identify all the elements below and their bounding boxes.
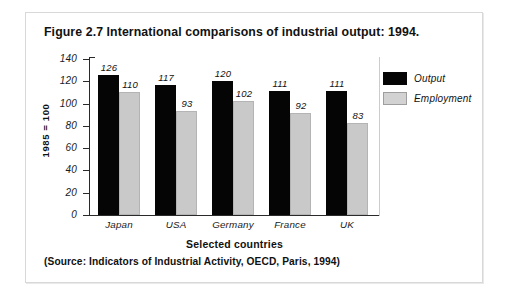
bar-group: 126110 <box>98 55 140 215</box>
x-axis-title: Selected countries <box>89 238 380 250</box>
y-axis-tick <box>83 215 90 216</box>
y-axis-tick-label: 40 <box>35 164 77 175</box>
bar-output <box>98 75 119 215</box>
legend-swatch-output <box>383 72 407 85</box>
bar-employment <box>290 113 311 216</box>
bar-value-label: 111 <box>317 78 357 89</box>
y-axis-tick-label: 80 <box>35 120 77 131</box>
y-axis-tick <box>83 126 90 127</box>
y-axis-top-cap <box>89 57 95 58</box>
bar-employment <box>347 123 368 215</box>
bar-value-label: 92 <box>281 100 321 111</box>
bar-value-label: 102 <box>224 88 264 99</box>
bar-group: 11192 <box>269 55 311 215</box>
bar-value-label: 120 <box>203 68 243 79</box>
bar-group: 11793 <box>155 55 197 215</box>
bar-value-label: 126 <box>89 62 129 73</box>
figure-frame: Figure 2.7 International comparisons of … <box>25 12 483 283</box>
bar-value-label: 83 <box>338 110 378 121</box>
y-axis-tick <box>83 59 90 60</box>
legend-label: Output <box>414 73 445 84</box>
bar-group: 120102 <box>212 55 254 215</box>
y-axis-tick <box>83 193 90 194</box>
x-axis-tick-label: UK <box>312 219 382 230</box>
y-axis-tick-label: 100 <box>35 98 77 109</box>
chart-plot-area: 1985 = 100 020406080100120140 1261101179… <box>26 13 484 284</box>
y-axis-tick-label: 60 <box>35 142 77 153</box>
legend-item: Output <box>383 68 472 88</box>
y-axis-tick <box>83 81 90 82</box>
bar-employment <box>233 101 254 215</box>
legend-swatch-employment <box>383 92 407 105</box>
chart-legend: OutputEmployment <box>383 68 472 108</box>
y-axis-tick-label: 20 <box>35 187 77 198</box>
bar-value-label: 117 <box>146 72 186 83</box>
bar-value-label: 111 <box>260 78 300 89</box>
bar-value-label: 110 <box>110 79 150 90</box>
y-axis-tick <box>83 104 90 105</box>
plot-right-edge <box>379 57 380 216</box>
y-axis-tick <box>83 170 90 171</box>
legend-label: Employment <box>414 93 472 104</box>
bar-group: 11183 <box>326 55 368 215</box>
bar-employment <box>176 111 197 215</box>
source-note: (Source: Indicators of Industrial Activi… <box>44 256 340 267</box>
bar-output <box>212 81 233 215</box>
y-axis-tick-label: 140 <box>35 53 77 64</box>
bar-employment <box>119 92 140 215</box>
y-axis-tick-label: 120 <box>35 75 77 86</box>
x-axis-line <box>89 215 380 216</box>
bar-value-label: 93 <box>167 98 207 109</box>
y-axis-tick-label: 0 <box>35 209 77 220</box>
y-axis-tick <box>83 148 90 149</box>
legend-item: Employment <box>383 88 472 108</box>
